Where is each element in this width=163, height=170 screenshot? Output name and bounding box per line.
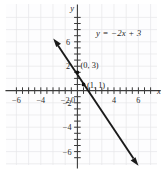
y-axis-label: y [69, 3, 74, 13]
y-tick-label-minus-6: −6 [63, 148, 72, 157]
x-tick-label-minus-4: −4 [36, 96, 45, 105]
y-tick-label-2: 2 [66, 62, 70, 71]
x-tick-label-minus-6: −6 [12, 96, 21, 105]
y-tick-label-6: 6 [66, 38, 70, 47]
y-tick-label-minus-2: −2 [63, 99, 72, 108]
x-tick-label-zero: 0 [71, 96, 75, 105]
y-tick-label-minus-4: −4 [63, 123, 72, 132]
coordinate-plane-svg: −6 −4 −2 0 4 6 6 2 −2 −4 −6 y x (0, 3) (… [0, 0, 163, 170]
point-marker-1-1 [82, 83, 86, 87]
point-marker-0-3 [76, 70, 80, 74]
x-tick-label-4: 4 [112, 96, 116, 105]
x-axis-label: x [156, 86, 161, 96]
point-label-0-3: (0, 3) [81, 61, 99, 70]
point-label-1-1: (1, 1) [87, 81, 105, 90]
equation-annotation: y = −2x + 3 [95, 28, 142, 38]
x-tick-label-6: 6 [136, 96, 140, 105]
graph-figure: −6 −4 −2 0 4 6 6 2 −2 −4 −6 y x (0, 3) (… [0, 0, 163, 170]
